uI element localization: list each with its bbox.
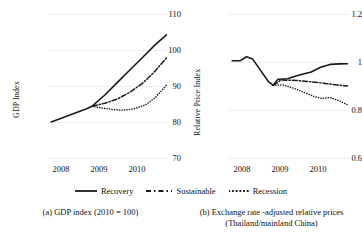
x-tick-b-0: 2008	[222, 165, 262, 174]
legend-swatch-dash-dot-icon	[146, 187, 172, 195]
chart-panel-a: GDP Index 110 100 90 80 70 2008 2009 201…	[0, 0, 181, 180]
legend-swatch-solid-icon	[75, 187, 97, 195]
figure: GDP Index 110 100 90 80 70 2008 2009 201…	[0, 0, 362, 241]
legend-swatch-dotted-icon	[229, 187, 249, 195]
series-line-recovery	[232, 57, 347, 86]
series-lines-b	[229, 14, 349, 158]
legend-label: Sustainable	[176, 186, 215, 196]
y-axis-label-a: GDP Index	[12, 81, 21, 118]
legend-item-sustainable: Sustainable	[146, 186, 215, 196]
series-line-sustainable	[92, 58, 166, 106]
series-line-recession	[92, 85, 166, 110]
legend-item-recovery: Recovery	[75, 186, 134, 196]
caption-panel-a: (a) GDP index (2010 = 100)	[0, 207, 181, 218]
plot-area-a	[48, 14, 168, 158]
gridline	[48, 158, 168, 159]
caption-line: (b) Exchange rate -adjusted relative pri…	[181, 207, 362, 218]
x-tick-a-1: 2009	[79, 165, 119, 174]
caption-line: (a) GDP index (2010 = 100)	[0, 207, 181, 218]
plot-area-b	[229, 14, 349, 158]
x-tick-b-2: 2010	[298, 165, 338, 174]
caption-panel-b: (b) Exchange rate -adjusted relative pri…	[181, 207, 362, 229]
chart-panel-b: Relative Price Index 1.2 1 0.8 0.6 2008 …	[181, 0, 362, 180]
caption-line-2: (Thailand/mainland China)	[181, 218, 362, 229]
legend-label: Recovery	[101, 186, 134, 196]
gridline	[229, 158, 349, 159]
y-axis-label-b: Relative Price Index	[193, 69, 202, 136]
series-line-sustainable	[273, 80, 347, 86]
x-tick-b-1: 2009	[260, 165, 300, 174]
x-tick-a-2: 2010	[117, 165, 157, 174]
legend-item-recession: Recession	[229, 186, 287, 196]
x-tick-a-0: 2008	[41, 165, 81, 174]
series-line-recession	[273, 85, 347, 105]
legend-label: Recession	[253, 186, 287, 196]
series-lines-a	[48, 14, 168, 158]
chart-legend: Recovery Sustainable Recession	[0, 183, 362, 199]
